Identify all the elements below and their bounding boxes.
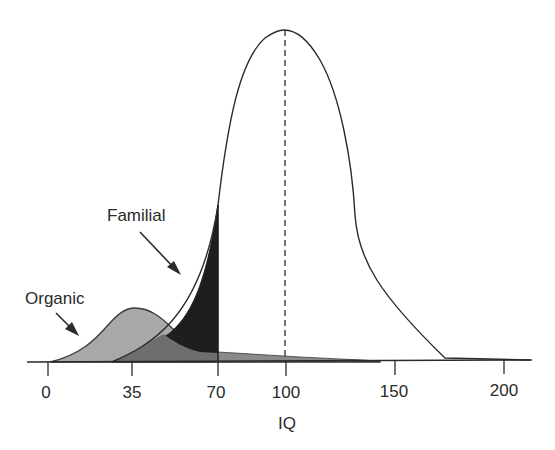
x-axis-title: IQ	[278, 414, 296, 433]
organic-arrow-icon	[56, 313, 79, 336]
tick-label-35: 35	[123, 383, 142, 402]
tick-label-200: 200	[490, 381, 518, 400]
familial-label: Familial	[107, 206, 166, 225]
tick-label-70: 70	[207, 383, 226, 402]
population-curve	[112, 30, 530, 362]
organic-label: Organic	[25, 289, 85, 308]
tick-label-0: 0	[41, 383, 50, 402]
tick-label-150: 150	[380, 382, 408, 401]
iq-distribution-chart: 0 35 70 100 150 200 IQ Familial Organic	[0, 0, 555, 450]
tick-label-100: 100	[272, 383, 300, 402]
familial-arrow-icon	[140, 232, 181, 275]
